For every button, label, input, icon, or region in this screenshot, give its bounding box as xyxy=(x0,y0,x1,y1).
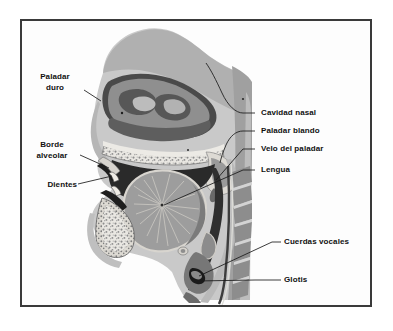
label-borde-alveolar: Borde alveolar xyxy=(24,140,80,161)
label-dientes-line-1: Dientes xyxy=(20,180,77,191)
label-glotis-line-1: Glotis xyxy=(284,275,307,286)
label-cuerdas-vocales-line-1: Cuerdas vocales xyxy=(284,237,349,248)
label-paladar-duro-line-2: duro xyxy=(27,83,83,94)
fleck-3 xyxy=(187,149,189,151)
label-lengua: Lengua xyxy=(261,165,290,176)
fleck-2 xyxy=(242,98,244,100)
hyoid-inner xyxy=(181,249,186,253)
label-borde-alveolar-line-2: alveolar xyxy=(24,151,80,162)
label-paladar-duro-line-1: Paladar xyxy=(27,72,83,83)
tongue-center-dot xyxy=(161,204,164,207)
label-paladar-blando-line-1: Paladar blando xyxy=(261,126,320,137)
anatomy-illustration xyxy=(0,0,393,331)
label-cavidad-nasal: Cavidad nasal xyxy=(261,108,316,119)
label-borde-alveolar-line-1: Borde xyxy=(24,140,80,151)
label-velo-del-paladar: Velo del paladar xyxy=(261,144,324,155)
label-cavidad-nasal-line-1: Cavidad nasal xyxy=(261,108,316,119)
label-velo-del-paladar-line-1: Velo del paladar xyxy=(261,144,324,155)
label-paladar-duro: Paladar duro xyxy=(27,72,83,93)
label-cuerdas-vocales: Cuerdas vocales xyxy=(284,237,349,248)
label-lengua-line-1: Lengua xyxy=(261,165,290,176)
label-glotis: Glotis xyxy=(284,275,307,286)
label-paladar-blando: Paladar blando xyxy=(261,126,320,137)
figure-canvas: Paladar duro Borde alveolar Dientes Cavi… xyxy=(0,0,393,331)
label-dientes: Dientes xyxy=(20,180,77,191)
fleck-1 xyxy=(121,112,123,114)
